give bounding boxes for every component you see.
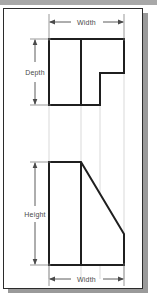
arrowhead-top — [33, 39, 38, 45]
arrowhead-top — [33, 162, 38, 168]
orthographic-drawing: Width Depth Height — [0, 0, 157, 298]
dimension-label-depth: Depth — [25, 69, 45, 77]
dimension-height: Height — [24, 162, 51, 265]
drawing-page: Width Depth Height — [0, 0, 157, 298]
arrowhead-right — [118, 20, 124, 25]
dimension-label-width-bottom: Width — [77, 276, 96, 283]
dimension-depth: Depth — [25, 39, 51, 105]
arrowhead-bottom — [33, 259, 38, 265]
front-view-shape — [49, 162, 124, 265]
arrowhead-left — [49, 277, 55, 282]
dimension-label-height: Height — [24, 211, 45, 219]
arrowhead-bottom — [33, 99, 38, 105]
dimension-width-bottom: Width — [49, 263, 124, 286]
arrowhead-right — [118, 277, 124, 282]
dimension-width-top: Width — [49, 14, 124, 41]
top-view-shape — [49, 39, 124, 105]
arrowhead-left — [49, 20, 55, 25]
dimension-label-width-top: Width — [77, 19, 96, 26]
